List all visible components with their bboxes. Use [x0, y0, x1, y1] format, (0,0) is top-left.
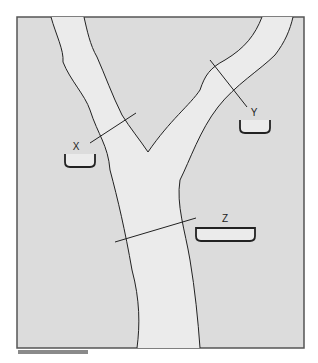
- cross-section-x-icon: [65, 154, 95, 167]
- cross-section-y-icon: [240, 120, 270, 133]
- section-label-x: X: [73, 141, 80, 152]
- scale-bar: [18, 350, 88, 354]
- section-label-y: Y: [251, 107, 258, 118]
- section-label-z: Z: [222, 213, 228, 224]
- river-diagram: X Y Z: [0, 0, 318, 363]
- cross-section-z-icon: [196, 228, 255, 241]
